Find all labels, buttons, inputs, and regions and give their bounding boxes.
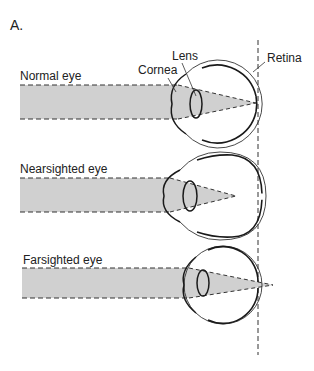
nearsighted-eye-label: Nearsighted eye xyxy=(20,162,108,176)
normal-eye-group: Normal eye Lens Cornea Retina xyxy=(20,49,302,148)
retina-arc xyxy=(202,65,256,96)
light-beam xyxy=(22,268,273,298)
farsighted-eye-group: Farsighted eye xyxy=(22,246,273,324)
light-beam xyxy=(20,178,236,212)
lens-label: Lens xyxy=(172,49,198,63)
light-beam xyxy=(20,85,256,119)
eye-focus-diagram: A. Normal eye Lens Cornea Retina Nearsig… xyxy=(0,0,314,371)
panel-label: A. xyxy=(10,17,23,33)
retina-label: Retina xyxy=(267,51,302,65)
cornea-label: Cornea xyxy=(138,63,178,77)
nearsighted-eye-group: Nearsighted eye xyxy=(20,152,266,240)
farsighted-eye-label: Farsighted eye xyxy=(23,253,103,267)
normal-eye-label: Normal eye xyxy=(20,69,82,83)
